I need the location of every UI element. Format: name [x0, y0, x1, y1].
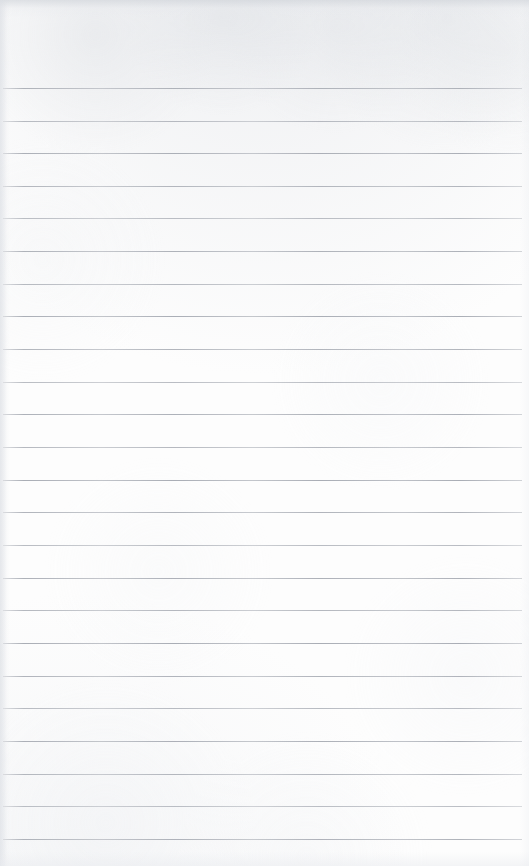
rule-line	[3, 708, 522, 709]
rule-line	[3, 251, 522, 252]
rule-line	[3, 316, 522, 317]
rule-line	[3, 610, 522, 611]
rule-line	[3, 284, 522, 285]
rule-line	[3, 774, 522, 775]
rule-line	[3, 447, 522, 448]
rule-line	[3, 186, 522, 187]
rule-line	[3, 480, 522, 481]
rule-line	[3, 218, 522, 219]
rule-line	[3, 545, 522, 546]
rule-line	[3, 382, 522, 383]
rule-line	[3, 121, 522, 122]
rule-line	[3, 88, 522, 89]
rule-line	[3, 806, 522, 807]
rule-line	[3, 741, 522, 742]
rule-line	[3, 839, 522, 840]
rule-line	[3, 578, 522, 579]
scanned-page	[0, 0, 529, 866]
rule-line	[3, 676, 522, 677]
rule-line	[3, 153, 522, 154]
paper-background	[0, 0, 529, 866]
rule-line	[3, 349, 522, 350]
rule-line	[3, 512, 522, 513]
rule-line	[3, 414, 522, 415]
rule-line	[3, 643, 522, 644]
